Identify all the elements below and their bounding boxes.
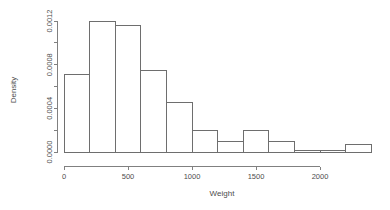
x-axis-title: Weight [210,189,236,198]
x-tick-labels: 0500100015002000 [62,172,328,181]
x-tick-label: 500 [122,172,135,181]
histogram-chart: 0.00000.00040.00080.0012 050010001500200… [0,0,390,210]
x-tick-label: 1000 [184,172,201,181]
y-axis [54,21,58,152]
histogram-bar [320,150,346,152]
y-tick-label: 0.0012 [45,10,54,33]
histogram-bar [166,103,192,152]
chart-canvas: 0.00000.00040.00080.0012 050010001500200… [0,0,390,210]
histogram-bar [294,150,320,152]
histogram-bar [346,144,372,152]
x-axis [64,167,320,171]
y-tick-label: 0.0000 [45,141,54,164]
histogram-bar [141,70,167,152]
histogram-bar [64,74,90,152]
histogram-bar [90,21,116,152]
x-tick-label: 1500 [248,172,265,181]
x-tick-label: 0 [62,172,66,181]
y-axis-title: Density [9,77,18,104]
histogram-bar [115,25,141,152]
x-tick-label: 2000 [312,172,329,181]
histogram-bar [269,141,295,152]
y-tick-label: 0.0004 [45,97,54,120]
y-tick-label: 0.0008 [45,53,54,76]
histogram-bar [243,130,269,152]
histogram-bar [192,130,218,152]
histogram-bar [218,141,244,152]
y-tick-labels: 0.00000.00040.00080.0012 [45,10,54,164]
bars-group [64,21,371,152]
